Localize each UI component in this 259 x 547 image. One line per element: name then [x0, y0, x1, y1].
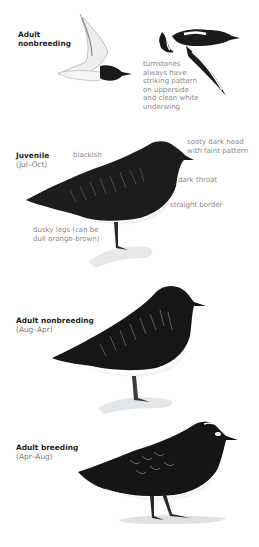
throat-note: dark throat — [178, 176, 217, 185]
note-line: dusky legs (can be — [33, 226, 100, 235]
plate-illustrations — [0, 0, 259, 547]
note-line: straight border — [170, 201, 222, 210]
note-line: with faint pattern — [187, 147, 248, 156]
note-line: sooty dark head — [187, 138, 248, 147]
flight-title-line1: Adult — [18, 30, 71, 39]
adult-breeding-figure-title: Adult breeding (Apr–Aug) — [16, 443, 78, 461]
flight-title-line2: nonbreeding — [18, 39, 71, 48]
note-line: dull orange-brown) — [33, 235, 100, 244]
note-line: always have — [143, 69, 199, 78]
legs-note: dusky legs (can be dull orange-brown) — [33, 226, 100, 243]
juvenile-figure-title: Juvenile (Jul–Oct) — [16, 151, 49, 169]
adult-breeding-season: (Apr–Aug) — [16, 452, 78, 461]
juvenile-season: (Jul–Oct) — [16, 160, 49, 169]
note-line: underwing — [143, 103, 199, 112]
blackish-note: blackish — [73, 151, 102, 160]
juvenile-bird — [26, 141, 194, 268]
note-line: dark throat — [178, 176, 217, 185]
adult-nonbreeding-figure-title: Adult nonbreeding (Aug–Apr) — [16, 316, 94, 334]
adult-breeding-title: Adult breeding — [16, 443, 78, 452]
note-line: on upperside — [143, 86, 199, 95]
flight-figure-title: Adult nonbreeding — [18, 30, 71, 48]
note-line: turnstones — [143, 60, 199, 69]
adult-nonbreeding-season: (Aug–Apr) — [16, 325, 94, 334]
note-line: striking pattern — [143, 77, 199, 86]
head-note: sooty dark head with faint pattern — [187, 138, 248, 155]
border-note: straight border — [170, 201, 222, 210]
note-line: and clean white — [143, 94, 199, 103]
adult-nonbreeding-title: Adult nonbreeding — [16, 316, 94, 325]
juvenile-title: Juvenile — [16, 151, 49, 160]
adult-nonbreeding-bird — [52, 286, 206, 414]
underwing-note: turnstones always have striking pattern … — [143, 60, 199, 112]
note-line: blackish — [73, 151, 102, 160]
adult-breeding-bird — [78, 422, 238, 524]
